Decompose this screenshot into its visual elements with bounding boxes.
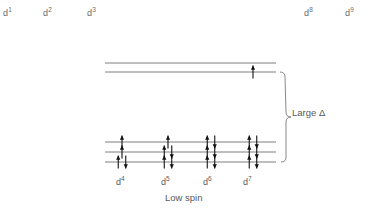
arrow-head [124, 164, 128, 168]
column-label-d6: d6 [203, 175, 212, 187]
arrow-head [116, 156, 120, 160]
arrow-head [166, 136, 170, 140]
top-label-superscript: 2 [48, 6, 52, 13]
arrow-head [170, 164, 174, 168]
column-label-superscript: 6 [208, 175, 212, 182]
top-label-d9: d9 [345, 6, 354, 18]
arrow-head [255, 164, 259, 168]
splitting-energy-label: Large Δ [292, 107, 325, 118]
column-label-d4: d4 [116, 175, 125, 187]
column-label-d5: d5 [161, 175, 170, 187]
arrow-head [247, 136, 251, 140]
top-label-superscript: 3 [92, 6, 96, 13]
top-label-d8: d8 [304, 6, 313, 18]
top-label-superscript: 1 [8, 6, 12, 13]
arrow-head [205, 146, 209, 150]
arrow-head [162, 146, 166, 150]
top-label-d1: d1 [3, 6, 12, 18]
arrow-head [205, 156, 209, 160]
arrow-head [247, 146, 251, 150]
arrow-head [213, 164, 217, 168]
column-label-d7: d7 [243, 175, 252, 187]
crystal-field-splitting-diagram: d1d2d3d8d9 d4d5d6d7 Large Δ Low spin [0, 0, 384, 211]
column-label-superscript: 7 [248, 175, 252, 182]
splitting-brace [280, 72, 291, 162]
column-label-superscript: 5 [166, 175, 170, 182]
arrow-head [162, 156, 166, 160]
top-label-d2: d2 [43, 6, 52, 18]
arrow-head [247, 156, 251, 160]
arrow-head [205, 136, 209, 140]
top-label-d3: d3 [87, 6, 96, 18]
arrow-head [251, 66, 255, 70]
arrow-head [120, 136, 124, 140]
diagram-caption: Low spin [165, 192, 203, 203]
column-label-superscript: 4 [121, 175, 125, 182]
arrow-head [120, 146, 124, 150]
top-label-superscript: 9 [350, 6, 354, 13]
energy-levels-layer [0, 0, 384, 211]
top-label-superscript: 8 [309, 6, 313, 13]
